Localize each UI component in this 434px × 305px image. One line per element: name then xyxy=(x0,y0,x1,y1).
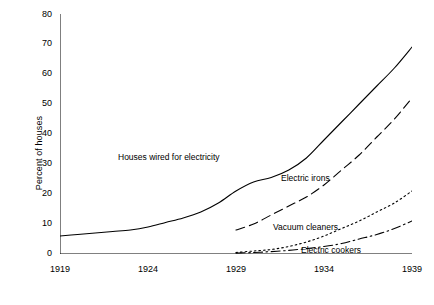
chart-svg xyxy=(60,14,412,254)
data-series xyxy=(60,47,412,253)
tick-marks xyxy=(60,14,412,254)
plot-area xyxy=(60,14,412,254)
y-tick-20: 20 xyxy=(30,188,52,198)
y-tick-50: 50 xyxy=(30,98,52,108)
annotation-electric-irons: Electric irons xyxy=(281,173,330,183)
series-line-electric-irons xyxy=(236,98,412,230)
annotation-houses-wired: Houses wired for electricity xyxy=(118,152,220,162)
x-tick-1924: 1924 xyxy=(131,264,165,274)
y-tick-10: 10 xyxy=(30,218,52,228)
x-tick-1939: 1939 xyxy=(395,264,429,274)
y-tick-80: 80 xyxy=(30,9,52,19)
annotation-electric-cookers: Electric cookers xyxy=(301,245,361,255)
y-tick-30: 30 xyxy=(30,158,52,168)
y-axis-label: Percent of houses xyxy=(34,115,44,189)
x-tick-1929: 1929 xyxy=(219,264,253,274)
y-tick-0: 0 xyxy=(30,248,52,258)
y-tick-70: 70 xyxy=(30,38,52,48)
annotation-vacuum-cleaners: Vacuum cleaners xyxy=(273,222,338,232)
x-tick-1934: 1934 xyxy=(307,264,341,274)
y-tick-60: 60 xyxy=(30,68,52,78)
x-tick-1919: 1919 xyxy=(43,264,77,274)
y-tick-40: 40 xyxy=(30,128,52,138)
chart-container: Percent of houses 80 70 60 50 40 30 20 1… xyxy=(0,0,434,305)
axes xyxy=(60,14,412,254)
series-line-houses-wired-for-electricity xyxy=(60,47,412,236)
